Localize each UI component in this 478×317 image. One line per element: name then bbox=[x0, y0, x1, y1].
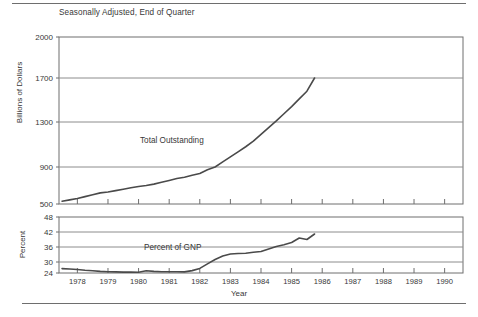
panel-percent-of-gnp: 2430364248197819791980198119821983198419… bbox=[44, 213, 463, 286]
series-annotation-label: Total Outstanding bbox=[140, 136, 204, 145]
figure-container: Seasonally Adjusted, End of Quarter Bill… bbox=[0, 0, 478, 317]
plot-frame bbox=[59, 37, 463, 204]
x-tick-label: 1989 bbox=[406, 277, 423, 286]
x-tick-label: 1987 bbox=[344, 277, 361, 286]
y-tick-label: 42 bbox=[44, 228, 53, 237]
y-tick-label: 2000 bbox=[35, 33, 53, 42]
y-tick-label: 1700 bbox=[35, 74, 53, 83]
panel-total-outstanding: 500900130017002000Total Outstanding bbox=[35, 33, 463, 209]
chart-svg: 500900130017002000Total Outstanding 2430… bbox=[0, 0, 478, 317]
plot-frame bbox=[59, 217, 463, 273]
y-tick-label: 30 bbox=[44, 258, 53, 267]
x-tick-label: 1983 bbox=[222, 277, 239, 286]
y-tick-label: 500 bbox=[40, 200, 54, 209]
y-tick-label: 900 bbox=[40, 163, 54, 172]
x-tick-label: 1984 bbox=[253, 277, 270, 286]
data-series-line bbox=[62, 234, 315, 272]
x-tick-label: 1982 bbox=[191, 277, 208, 286]
y-tick-label: 24 bbox=[44, 269, 53, 278]
x-tick-label: 1980 bbox=[130, 277, 147, 286]
x-tick-label: 1978 bbox=[69, 277, 86, 286]
series-annotation-label: Percent of GNP bbox=[144, 243, 202, 252]
y-tick-label: 36 bbox=[44, 243, 53, 252]
x-tick-label: 1985 bbox=[283, 277, 300, 286]
y-tick-label: 1300 bbox=[35, 118, 53, 127]
y-tick-label: 48 bbox=[44, 213, 53, 222]
x-tick-label: 1988 bbox=[375, 277, 392, 286]
x-tick-label: 1979 bbox=[100, 277, 117, 286]
x-tick-label: 1981 bbox=[161, 277, 178, 286]
x-tick-label: 1990 bbox=[436, 277, 453, 286]
x-tick-label: 1986 bbox=[314, 277, 331, 286]
